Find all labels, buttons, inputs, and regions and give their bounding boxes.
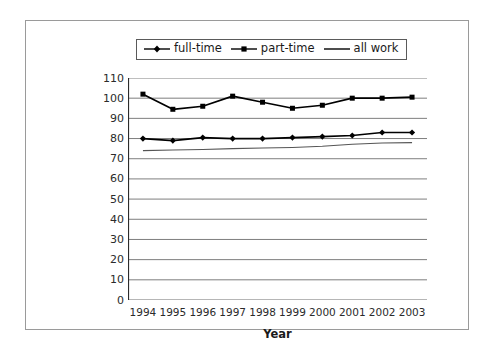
y-axis-tick-label: 110 [98,73,124,84]
y-axis-tick-label: 20 [98,254,124,265]
series-line-all-work [143,143,412,151]
data-point-marker [350,96,355,101]
data-point-marker [349,132,355,138]
plot-canvas [128,78,427,300]
x-axis-tick-label: 1999 [278,307,308,318]
y-axis-tick-label: 40 [98,214,124,225]
x-axis-tick-label: 1998 [248,307,278,318]
x-axis-title: Year [128,327,427,341]
data-point-marker [230,94,235,99]
legend-item-full-time: full-time [144,43,222,55]
y-axis-tick-label: 80 [98,133,124,144]
legend-item-all-work: all work [324,43,399,55]
data-point-marker [140,135,146,141]
x-axis-tick-label: 1994 [128,307,158,318]
y-axis-tick-label: 30 [98,234,124,245]
x-axis-tick-label: 1995 [158,307,188,318]
data-point-marker [259,135,265,141]
data-point-marker [379,129,385,135]
y-axis-tick-label: 10 [98,274,124,285]
x-axis-tick-label: 1996 [188,307,218,318]
x-axis-tick-label: 2003 [397,307,427,318]
series-line-full-time [143,132,412,140]
x-axis-tick-label: 2000 [307,307,337,318]
data-point-marker [230,135,236,141]
legend-label-part-time: part-time [261,43,315,55]
chart-legend: full-time part-time all work [136,39,407,60]
y-axis-tick-label: 70 [98,153,124,164]
data-point-marker [410,95,415,100]
y-axis-tick-label: 0 [98,295,124,306]
data-point-marker [290,106,295,111]
x-axis-tick-label: 2002 [367,307,397,318]
plot-area [128,78,427,300]
y-axis-tick-label: 100 [98,93,124,104]
chart-figure: full-time part-time all work 11010090807… [25,20,469,330]
legend-label-all-work: all work [354,43,399,55]
series-line-part-time [143,94,412,109]
legend-marker-square-icon [231,44,257,54]
y-axis-tick-label: 90 [98,113,124,124]
legend-item-part-time: part-time [231,43,315,55]
x-axis-tick-label: 1997 [218,307,248,318]
data-point-marker [200,104,205,109]
y-axis-tick-label: 60 [98,173,124,184]
data-point-marker [140,92,145,97]
data-point-marker [409,129,415,135]
data-point-marker [380,96,385,101]
x-axis-tick-label: 2001 [337,307,367,318]
data-point-marker [320,103,325,108]
x-axis-tick-labels: 1994199519961997199819992000200120022003 [128,307,427,318]
y-axis-tick-label: 50 [98,194,124,205]
data-point-marker [170,107,175,112]
data-point-marker [289,134,295,140]
y-axis-tick-labels: 1101009080706050403020100 [94,78,124,300]
legend-marker-diamond-icon [144,44,170,54]
legend-label-full-time: full-time [174,43,222,55]
legend-marker-line-icon [324,44,350,54]
data-point-marker [200,134,206,140]
data-point-marker [260,100,265,105]
